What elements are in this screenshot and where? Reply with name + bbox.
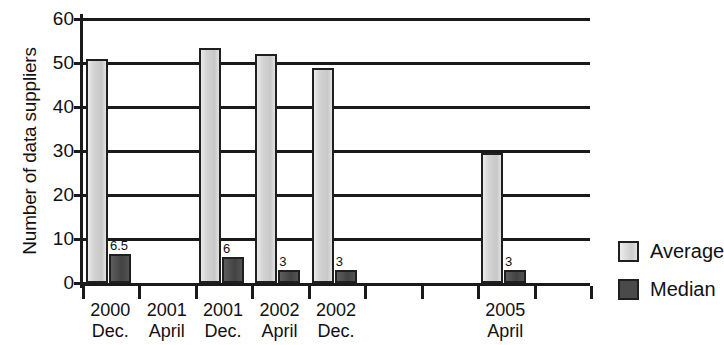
legend-item-median: Median	[618, 270, 724, 308]
x-axis-line	[82, 283, 590, 286]
y-axis-tick-label: 50	[30, 53, 74, 72]
x-axis-tickmark	[421, 286, 424, 299]
x-axis-tickmark	[195, 286, 198, 299]
legend-item-average: Average	[618, 232, 724, 270]
x-axis-tickmark	[364, 286, 367, 299]
bar-average	[86, 59, 108, 283]
x-axis-category-label: 2005April	[462, 300, 548, 342]
bar-value-label: 3	[279, 255, 286, 268]
x-axis-category-month: April	[462, 321, 548, 342]
y-axis-tick-label: 60	[30, 9, 74, 28]
bar-average	[255, 54, 277, 283]
bar-median	[504, 270, 526, 283]
x-axis-tickmark	[138, 286, 141, 299]
plot-area: 6.56333	[82, 19, 590, 283]
legend-swatch-median	[618, 279, 639, 300]
bar-median	[335, 270, 357, 283]
y-axis-tick-label: 0	[30, 273, 74, 292]
x-axis-tickmark	[308, 286, 311, 299]
bar-value-label: 6.5	[110, 239, 128, 252]
x-axis-tickmark	[590, 286, 593, 299]
y-axis-tick-labels: 0102030405060	[22, 0, 74, 345]
x-axis-category-year: 2002	[293, 300, 379, 321]
x-axis-tickmark	[82, 286, 85, 299]
y-axis-tick-label: 20	[30, 185, 74, 204]
y-axis-tick-label: 40	[30, 97, 74, 116]
bar-median	[278, 270, 300, 283]
bar-average	[312, 68, 334, 283]
bar-value-label: 3	[336, 255, 343, 268]
bar-median	[222, 257, 244, 283]
x-axis-category-month: Dec.	[293, 321, 379, 342]
bar-value-label: 3	[505, 255, 512, 268]
x-axis-category-year: 2005	[462, 300, 548, 321]
y-axis-tick-label: 10	[30, 229, 74, 248]
legend-swatch-average	[618, 241, 639, 262]
x-axis-tickmark	[477, 286, 480, 299]
y-axis-tick-label: 30	[30, 141, 74, 160]
x-axis-tickmark	[251, 286, 254, 299]
chart-legend: AverageMedian	[618, 232, 724, 308]
bar-median	[109, 254, 131, 283]
bar-average	[199, 48, 221, 283]
x-axis-category-label: 2002Dec.	[293, 300, 379, 342]
bar-value-label: 6	[223, 242, 230, 255]
legend-label-average: Average	[650, 241, 724, 261]
bar-average	[481, 153, 503, 283]
x-axis-tickmark	[534, 286, 537, 299]
legend-label-median: Median	[650, 279, 716, 299]
